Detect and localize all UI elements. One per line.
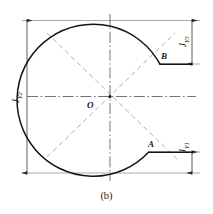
figure-container: O A B JY2 JY3 JY1 (b) <box>0 0 213 214</box>
dimension-label-jy3-subscript: Y3 <box>183 36 190 43</box>
dimension-label-jy2-base: J <box>11 99 21 103</box>
dimension-label-jy3: JY3 <box>179 31 190 53</box>
point-label-a: A <box>148 140 154 149</box>
center-point-label: O <box>87 101 94 110</box>
part-outline <box>17 24 192 176</box>
dimension-label-jy3-base: J <box>178 43 188 47</box>
dimension-label-jy1: JY1 <box>179 137 190 159</box>
dimension-label-jy1-base: J <box>178 149 188 153</box>
point-label-b: B <box>161 52 167 61</box>
centerlines <box>27 14 196 181</box>
dimension-label-jy2: JY2 <box>12 87 23 109</box>
center-point-marker <box>109 95 112 98</box>
dimension-label-jy2-subscript: Y2 <box>16 92 23 99</box>
figure-caption: (b) <box>0 190 213 201</box>
dimension-label-jy1-subscript: Y1 <box>183 142 190 149</box>
